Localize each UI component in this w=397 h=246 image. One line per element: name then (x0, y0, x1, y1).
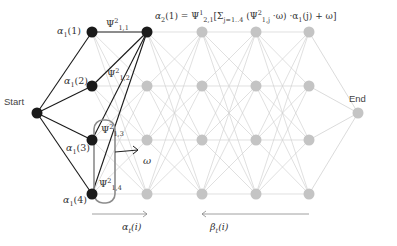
state-node-inactive (197, 135, 208, 146)
state-node-inactive (304, 189, 315, 200)
backward-beta-label: βt(i) (210, 222, 229, 232)
state-node-inactive (304, 81, 315, 92)
omega-arrow (115, 150, 138, 152)
alpha-1-2-label: α1(2) (64, 76, 88, 86)
state-node-inactive (251, 81, 262, 92)
state-node-active (87, 27, 98, 38)
start-edge (37, 113, 92, 194)
psi-1-1-label: Ψ21,1 (106, 19, 129, 29)
forward-alpha-label: αt(i) (122, 222, 142, 232)
state-node-active (87, 81, 98, 92)
state-node-inactive (251, 27, 262, 38)
psi-1-3-label: Ψ21,3 (101, 125, 124, 135)
psi-1-4-label: Ψ21,4 (99, 179, 122, 189)
psi-1-2-label: Ψ21,2 (107, 69, 130, 79)
trellis-diagram (0, 0, 397, 246)
state-node-inactive (251, 189, 262, 200)
omega-label: ω (143, 156, 151, 166)
alpha-1-4-label: α1(4) (63, 195, 87, 205)
state-node-inactive (197, 27, 208, 38)
end-label: End (349, 94, 366, 104)
alpha-1-3-label: α1(3) (66, 143, 90, 153)
start-edge (37, 86, 92, 113)
end-edge (309, 113, 358, 194)
state-node-inactive (304, 27, 315, 38)
state-node-inactive (142, 135, 153, 146)
state-node-inactive (142, 81, 153, 92)
state-node-inactive (142, 189, 153, 200)
state-node-inactive (197, 189, 208, 200)
start-node (32, 108, 43, 119)
state-node-active (87, 189, 98, 200)
state-node-inactive (197, 81, 208, 92)
end-node (353, 108, 364, 119)
state-node-inactive (251, 135, 262, 146)
start-label: Start (4, 97, 24, 107)
alpha-2-1-formula: α2(1) = Ψ12,1[Σj=1..4 (Ψ21,j ·ω) ·α1(j) … (155, 12, 336, 21)
end-edge (309, 113, 358, 140)
state-node-inactive (304, 135, 315, 146)
alpha-1-1-label: α1(1) (57, 26, 81, 36)
start-edge (37, 32, 92, 113)
start-edge (37, 113, 92, 140)
state-node-active (142, 27, 153, 38)
